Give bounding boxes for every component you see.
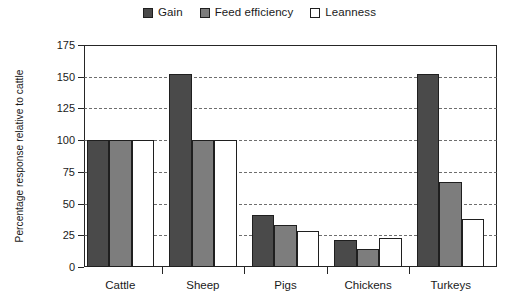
legend-label-gain: Gain <box>158 7 183 19</box>
legend-entry-leanness: Leanness <box>310 7 376 19</box>
legend-entry-feed-efficiency: Feed efficiency <box>200 7 294 19</box>
legend-entry-gain: Gain <box>143 7 183 19</box>
y-tick-label: 125 <box>45 103 75 114</box>
plot-area: 0255075100125150175 CattleSheepPigsChick… <box>84 45 497 267</box>
bar-sheep-gain <box>169 74 192 267</box>
y-tick-label: 150 <box>45 71 75 82</box>
bar-chickens-feed-efficiency <box>357 249 380 267</box>
x-tick-label-chickens: Chickens <box>344 280 391 292</box>
bar-pigs-gain <box>252 215 275 267</box>
legend-swatch-leanness <box>310 8 320 18</box>
y-tick-label: 25 <box>45 230 75 241</box>
bar-cattle-gain <box>87 140 110 267</box>
y-tick-label: 75 <box>45 166 75 177</box>
x-tick-mark <box>162 267 163 274</box>
x-tick-mark <box>244 267 245 274</box>
legend-label-leanness: Leanness <box>325 7 376 19</box>
bar-turkeys-leanness <box>462 219 485 267</box>
bar-cattle-leanness <box>132 140 155 267</box>
bar-turkeys-gain <box>417 74 440 267</box>
y-tick-label: 100 <box>45 135 75 146</box>
y-tick-label: 175 <box>45 40 75 51</box>
bar-sheep-leanness <box>214 140 237 267</box>
y-tick-label: 50 <box>45 198 75 209</box>
x-tick-label-cattle: Cattle <box>105 280 135 292</box>
bar-sheep-feed-efficiency <box>192 140 215 267</box>
chart-legend: Gain Feed efficiency Leanness <box>0 7 519 19</box>
legend-label-feed-efficiency: Feed efficiency <box>215 7 294 19</box>
x-tick-mark <box>409 267 410 274</box>
x-tick-label-pigs: Pigs <box>274 280 296 292</box>
x-tick-mark <box>327 267 328 274</box>
bar-groups <box>84 45 497 267</box>
x-tick-label-turkeys: Turkeys <box>430 280 470 292</box>
x-tick-label-sheep: Sheep <box>186 280 219 292</box>
bar-chickens-gain <box>334 240 357 267</box>
y-tick-label: 0 <box>45 262 75 273</box>
bar-cattle-feed-efficiency <box>109 140 132 267</box>
legend-swatch-gain <box>143 8 153 18</box>
y-axis-title: Percentage response relative to cattle <box>13 53 27 259</box>
legend-swatch-feed-efficiency <box>200 8 210 18</box>
y-tick-mark <box>78 267 84 268</box>
bar-turkeys-feed-efficiency <box>439 182 462 267</box>
bar-pigs-feed-efficiency <box>274 225 297 267</box>
bar-chickens-leanness <box>379 238 402 267</box>
bar-pigs-leanness <box>297 231 320 267</box>
